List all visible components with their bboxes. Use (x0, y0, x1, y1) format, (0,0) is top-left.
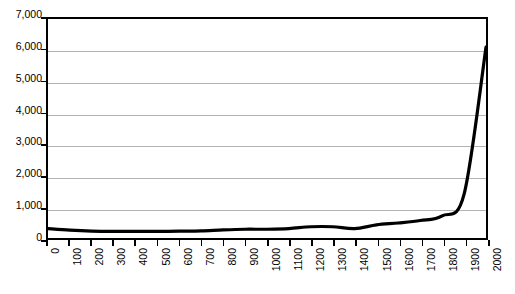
x-axis-ticks (46, 240, 488, 246)
x-tick-mark (333, 240, 335, 246)
x-tick-mark (444, 240, 446, 246)
x-tick-label: 2000 (492, 248, 503, 271)
x-tick-label-text: 900 (249, 248, 260, 266)
x-tick-mark (157, 240, 159, 246)
x-tick-label-text: 2000 (492, 248, 503, 271)
x-tick-mark (488, 240, 490, 246)
series-population-line (48, 19, 486, 238)
x-tick-label-text: 100 (72, 248, 83, 266)
x-axis: 0100200300400500600700800900100011001200… (46, 248, 488, 294)
y-tick-label: 4,000 (0, 105, 42, 115)
x-tick-label: 1200 (315, 248, 326, 271)
x-tick-mark (311, 240, 313, 246)
x-tick-label-text: 600 (183, 248, 194, 266)
x-tick-label: 1500 (382, 248, 393, 271)
x-tick-label: 1800 (448, 248, 459, 271)
x-tick-label-text: 1000 (271, 248, 282, 271)
y-tick-label: 6,000 (0, 41, 42, 51)
series-path (48, 47, 486, 231)
population-line-chart: 7,0006,0005,0004,0003,0002,0001,0000 010… (0, 0, 515, 294)
x-tick-label: 700 (205, 248, 216, 266)
x-tick-mark (223, 240, 225, 246)
x-tick-label-text: 0 (50, 248, 61, 254)
x-tick-label-text: 1900 (470, 248, 481, 271)
x-tick-label: 800 (227, 248, 238, 266)
x-tick-label-text: 1100 (293, 248, 304, 271)
x-tick-label: 1100 (293, 248, 304, 271)
x-tick-label-text: 1800 (448, 248, 459, 271)
x-tick-label-text: 800 (227, 248, 238, 266)
x-tick-mark (466, 240, 468, 246)
x-tick-label-text: 1300 (337, 248, 348, 271)
x-tick-label-text: 700 (205, 248, 216, 266)
x-tick-label: 1400 (359, 248, 370, 271)
x-tick-label: 100 (72, 248, 83, 266)
y-tick-label: 3,000 (0, 136, 42, 146)
x-tick-mark (112, 240, 114, 246)
x-tick-label: 1600 (404, 248, 415, 271)
x-tick-label: 400 (138, 248, 149, 266)
plot-area (46, 17, 488, 240)
x-tick-label-text: 1200 (315, 248, 326, 271)
y-axis: 7,0006,0005,0004,0003,0002,0001,0000 (0, 14, 42, 240)
x-tick-label: 1300 (337, 248, 348, 271)
chart-title-cropped (56, 0, 416, 2)
x-tick-label-text: 500 (161, 248, 172, 266)
y-tick-mark (41, 208, 47, 210)
x-tick-mark (68, 240, 70, 246)
y-tick-mark (41, 81, 47, 83)
y-tick-label: 1,000 (0, 200, 42, 210)
y-tick-mark (41, 240, 47, 242)
x-tick-mark (267, 240, 269, 246)
x-tick-mark (201, 240, 203, 246)
x-tick-label: 500 (161, 248, 172, 266)
x-tick-label: 300 (116, 248, 127, 266)
x-tick-mark (245, 240, 247, 246)
y-tick-mark (41, 49, 47, 51)
x-tick-label: 600 (183, 248, 194, 266)
x-tick-mark (378, 240, 380, 246)
x-tick-label-text: 1400 (359, 248, 370, 271)
y-tick-mark (41, 113, 47, 115)
y-tick-mark (41, 144, 47, 146)
x-tick-label: 1000 (271, 248, 282, 271)
y-tick-label: 0 (0, 232, 42, 242)
x-tick-mark (134, 240, 136, 246)
x-tick-mark (422, 240, 424, 246)
x-tick-mark (289, 240, 291, 246)
x-tick-label-text: 300 (116, 248, 127, 266)
x-tick-label: 200 (94, 248, 105, 266)
y-tick-label: 2,000 (0, 168, 42, 178)
x-tick-label-text: 200 (94, 248, 105, 266)
x-tick-mark (179, 240, 181, 246)
x-tick-label: 900 (249, 248, 260, 266)
x-tick-mark (355, 240, 357, 246)
x-tick-label: 0 (50, 248, 61, 254)
y-tick-mark (41, 17, 47, 19)
x-tick-label-text: 1500 (382, 248, 393, 271)
y-tick-mark (41, 176, 47, 178)
x-tick-label-text: 1600 (404, 248, 415, 271)
x-tick-mark (400, 240, 402, 246)
y-tick-label: 5,000 (0, 73, 42, 83)
x-tick-label: 1700 (426, 248, 437, 271)
x-tick-label-text: 1700 (426, 248, 437, 271)
y-tick-label: 7,000 (0, 9, 42, 19)
x-tick-label-text: 400 (138, 248, 149, 266)
x-tick-mark (90, 240, 92, 246)
x-tick-label: 1900 (470, 248, 481, 271)
